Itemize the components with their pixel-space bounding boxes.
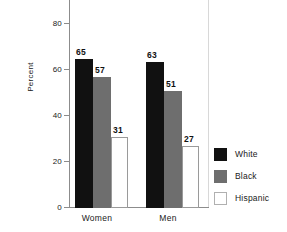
y-tick-mark-40 xyxy=(64,115,69,116)
bar-value-women-hispanic: 31 xyxy=(113,125,123,135)
bar-women-hispanic xyxy=(111,137,128,208)
y-tick-label-80: 80 xyxy=(34,19,62,28)
bar-men-hispanic xyxy=(182,146,199,208)
plot-right-border xyxy=(208,0,209,208)
legend-label-white: White xyxy=(235,149,258,159)
x-category-label-women: Women xyxy=(66,213,128,223)
bar-value-men-black: 51 xyxy=(166,79,176,89)
y-tick-label-0: 0 xyxy=(34,203,62,212)
bar-chart: Percent 80 60 40 20 0 65 57 31 Women 63 … xyxy=(0,0,287,232)
bar-value-women-white: 65 xyxy=(76,47,86,57)
bar-value-men-white: 63 xyxy=(147,50,157,60)
y-axis-line xyxy=(69,0,70,208)
y-tick-mark-80 xyxy=(64,23,69,24)
bar-men-white xyxy=(146,62,164,208)
bar-women-white xyxy=(75,59,93,209)
y-axis-title: Percent xyxy=(26,37,36,117)
legend-label-hispanic: Hispanic xyxy=(235,193,269,203)
y-tick-mark-0 xyxy=(64,207,69,208)
legend-label-black: Black xyxy=(235,171,257,181)
y-tick-label-20: 20 xyxy=(34,157,62,166)
bar-men-black xyxy=(164,91,182,208)
legend-swatch-black xyxy=(214,170,227,183)
legend-swatch-hispanic xyxy=(214,192,227,205)
y-tick-label-40: 40 xyxy=(34,111,62,120)
y-tick-label-60: 60 xyxy=(34,65,62,74)
x-category-label-men: Men xyxy=(137,213,199,223)
bar-value-women-black: 57 xyxy=(95,65,105,75)
bar-value-men-hispanic: 27 xyxy=(184,134,194,144)
y-tick-mark-60 xyxy=(64,69,69,70)
legend-swatch-white xyxy=(214,148,227,161)
bar-women-black xyxy=(93,77,111,208)
y-tick-mark-20 xyxy=(64,161,69,162)
